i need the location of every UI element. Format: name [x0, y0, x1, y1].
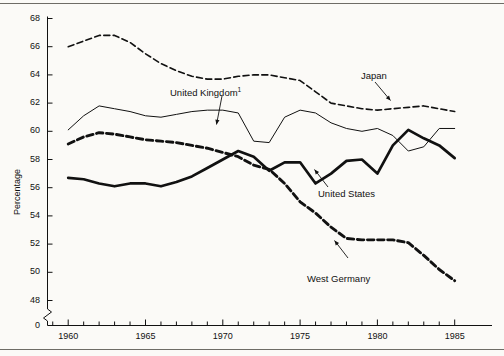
- x-axis-tick-label: 1985: [435, 331, 475, 341]
- x-axis-tick-label: 1980: [357, 331, 397, 341]
- figure-root: Percentage 04850525456586062646668 19601…: [0, 0, 504, 356]
- x-axis-tick-label: 1960: [48, 331, 88, 341]
- y-axis-tick-label: 52: [18, 238, 40, 248]
- series-label-united-kingdom: United Kingdom1: [170, 86, 241, 98]
- y-axis-tick-label: 68: [18, 13, 40, 23]
- series-line-united-kingdom: [68, 106, 455, 151]
- y-axis-tick-label: 56: [18, 182, 40, 192]
- x-axis-tick-label: 1970: [203, 331, 243, 341]
- series-label-united-kingdom-footnote: 1: [238, 86, 242, 93]
- series-label-united-kingdom-text: United Kingdom: [170, 87, 238, 98]
- series-label-japan: Japan: [361, 70, 387, 81]
- x-axis-tick-label: 1965: [126, 331, 166, 341]
- x-axis-tick-label: 1975: [280, 331, 320, 341]
- series-line-west-germany: [68, 133, 455, 281]
- y-axis-tick-label: 54: [18, 210, 40, 220]
- leader-west-germany-head: [335, 241, 340, 246]
- series-line-united-states: [68, 130, 455, 186]
- y-axis-break-symbol: [44, 309, 52, 326]
- y-axis-tick-label: 48: [18, 295, 40, 305]
- y-axis-tick-label: 60: [18, 125, 40, 135]
- chart-canvas: [0, 0, 504, 356]
- series-label-united-states: United States: [318, 188, 375, 199]
- y-axis-tick-label: 62: [18, 97, 40, 107]
- leader-united-states-head: [315, 170, 320, 175]
- leader-united-kingdom-head: [215, 119, 219, 124]
- series-line-japan: [68, 35, 455, 111]
- y-axis-tick-label: 0: [18, 320, 40, 330]
- y-axis-tick-label: 58: [18, 154, 40, 164]
- series-label-west-germany: West Germany: [307, 273, 370, 284]
- y-axis-tick-label: 66: [18, 41, 40, 51]
- y-axis-tick-label: 50: [18, 266, 40, 276]
- y-axis-tick-label: 64: [18, 69, 40, 79]
